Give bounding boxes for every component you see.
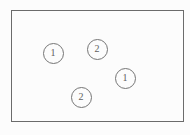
circle-node: 2 [87,39,108,60]
diagram-canvas: 1212 [0,0,190,135]
circle-node: 1 [43,43,64,64]
circle-node: 1 [115,68,136,89]
circle-node-label: 1 [51,48,56,58]
circle-node-label: 1 [123,73,128,83]
circle-node-label: 2 [95,44,100,54]
circle-node-label: 2 [79,92,84,102]
circle-node: 2 [71,87,92,108]
bounding-box [11,10,184,122]
